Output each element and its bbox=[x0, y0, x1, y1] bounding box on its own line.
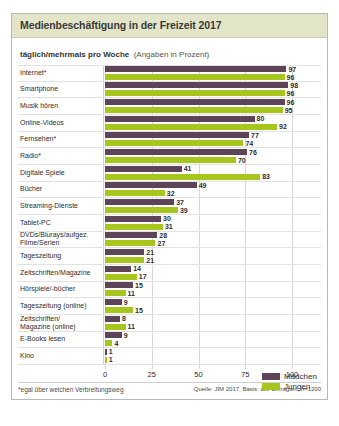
category-label: Tageszeitung (online) bbox=[20, 302, 87, 310]
bar-jungen bbox=[105, 290, 126, 296]
bar-maedchen bbox=[105, 199, 174, 205]
table-row: Smartphone9896 bbox=[18, 82, 321, 99]
bar-line: 27 bbox=[105, 240, 321, 246]
bar-value-label: 9 bbox=[124, 299, 128, 306]
bar-line: 96 bbox=[105, 99, 321, 105]
bar-value-label: 83 bbox=[262, 173, 270, 180]
bar-group: 4183 bbox=[104, 165, 321, 181]
category-label: DVDs/Blurays/aufgez. Filme/Serien bbox=[20, 231, 88, 247]
category-label-cell: Radio* bbox=[18, 148, 104, 164]
category-label: Zeitschriften/Magazine bbox=[20, 269, 90, 277]
bar-jungen bbox=[105, 240, 155, 246]
bar-line: 97 bbox=[105, 66, 321, 72]
bar-group: 7670 bbox=[104, 148, 321, 164]
bar-line: 30 bbox=[105, 216, 321, 222]
category-label: Musik hören bbox=[20, 102, 58, 110]
bar-value-label: 4 bbox=[114, 340, 118, 347]
bar-value-label: 92 bbox=[279, 123, 287, 130]
bar-line: 96 bbox=[105, 74, 321, 80]
table-row: Online-Videos8092 bbox=[18, 115, 321, 132]
bar-line: 96 bbox=[105, 90, 321, 96]
bar-value-label: 77 bbox=[251, 132, 259, 139]
category-label: Hörspiele/-bücher bbox=[20, 285, 75, 293]
table-row: Digitale Spiele4183 bbox=[18, 165, 321, 182]
bar-line: 9 bbox=[105, 299, 321, 305]
bar-maedchen bbox=[105, 282, 133, 288]
category-label: Radio* bbox=[20, 152, 41, 160]
bar-line: 21 bbox=[105, 249, 321, 255]
table-row: Tageszeitung (online)915 bbox=[18, 298, 321, 315]
bar-jungen bbox=[105, 90, 285, 96]
bar-value-label: 70 bbox=[238, 157, 246, 164]
bar-value-label: 30 bbox=[163, 215, 171, 222]
bar-line: 49 bbox=[105, 182, 321, 188]
category-label: Online-Videos bbox=[20, 119, 64, 127]
bar-value-label: 21 bbox=[146, 249, 154, 256]
category-label-cell: Zeitschriften/ Magazine (online) bbox=[18, 315, 104, 331]
bar-maedchen bbox=[105, 266, 131, 272]
category-label-cell: Kino bbox=[18, 348, 104, 364]
bar-maedchen bbox=[105, 216, 161, 222]
bar-jungen bbox=[105, 340, 112, 346]
bar-value-label: 98 bbox=[290, 82, 298, 89]
legend-swatch-jungen bbox=[262, 383, 280, 390]
bar-group: 1417 bbox=[104, 265, 321, 281]
bar-line: 15 bbox=[105, 282, 321, 288]
bar-line: 17 bbox=[105, 274, 321, 280]
bar-line: 76 bbox=[105, 149, 321, 155]
bar-group: 9796 bbox=[104, 66, 321, 81]
bar-line: 14 bbox=[105, 266, 321, 272]
bar-line: 1 bbox=[105, 357, 321, 363]
bar-value-label: 41 bbox=[184, 165, 192, 172]
table-row: Kino11 bbox=[18, 348, 321, 365]
chart-figure: Medienbeschäftigung in der Freizeit 2017… bbox=[11, 13, 328, 400]
bar-value-label: 17 bbox=[139, 273, 147, 280]
legend-label: Jungen bbox=[284, 382, 310, 391]
bar-value-label: 96 bbox=[287, 90, 295, 97]
category-label-cell: Tageszeitung (online) bbox=[18, 298, 104, 314]
bar-line: 80 bbox=[105, 116, 321, 122]
bar-value-label: 74 bbox=[245, 140, 253, 147]
bar-value-label: 49 bbox=[199, 182, 207, 189]
category-label: Digitale Spiele bbox=[20, 169, 65, 177]
bar-group: 915 bbox=[104, 298, 321, 314]
bar-line: 39 bbox=[105, 207, 321, 213]
table-row: Hörspiele/-bücher1511 bbox=[18, 282, 321, 299]
bar-line: 98 bbox=[105, 82, 321, 88]
table-row: Fernsehen*7774 bbox=[18, 132, 321, 149]
bar-jungen bbox=[105, 274, 137, 280]
page-title: Medienbeschäftigung in der Freizeit 2017 bbox=[20, 19, 319, 31]
category-label: Smartphone bbox=[20, 85, 58, 93]
bar-line: 95 bbox=[105, 107, 321, 113]
bar-maedchen bbox=[105, 166, 182, 172]
table-row: Tageszeitung2121 bbox=[18, 248, 321, 265]
category-label: Internet* bbox=[20, 69, 46, 77]
chart-footnote: *egal über welchen Verbreitungsweg bbox=[18, 386, 124, 393]
bar-line: 31 bbox=[105, 224, 321, 230]
legend-swatch-maedchen bbox=[262, 373, 280, 380]
category-label-cell: Online-Videos bbox=[18, 115, 104, 131]
bar-line: 32 bbox=[105, 190, 321, 196]
bar-maedchen bbox=[105, 132, 249, 138]
category-label: Tablet-PC bbox=[20, 219, 51, 227]
legend-item: Mädchen bbox=[262, 372, 317, 381]
bar-value-label: 11 bbox=[128, 323, 135, 330]
bar-line: 70 bbox=[105, 157, 321, 163]
legend-item: Jungen bbox=[262, 382, 317, 391]
table-row: Radio*7670 bbox=[18, 148, 321, 165]
bar-maedchen bbox=[105, 299, 122, 305]
chart-subtitle-strong: täglich/mehrmals pro Woche bbox=[20, 50, 129, 59]
bar-value-label: 8 bbox=[122, 315, 126, 322]
table-row: Zeitschriften/ Magazine (online)811 bbox=[18, 315, 321, 332]
category-label-cell: Tablet-PC bbox=[18, 215, 104, 231]
category-label-cell: DVDs/Blurays/aufgez. Filme/Serien bbox=[18, 232, 104, 248]
bar-line: 92 bbox=[105, 124, 321, 130]
bar-jungen bbox=[105, 257, 144, 263]
bar-value-label: 1 bbox=[109, 356, 113, 363]
table-row: E-Books lesen94 bbox=[18, 332, 321, 349]
table-row: Streaming-Dienste3739 bbox=[18, 198, 321, 215]
bar-maedchen bbox=[105, 232, 157, 238]
bar-rows: Internet*9796Smartphone9896Musik hören96… bbox=[18, 65, 321, 365]
bar-value-label: 96 bbox=[287, 74, 295, 81]
bar-value-label: 39 bbox=[180, 207, 188, 214]
